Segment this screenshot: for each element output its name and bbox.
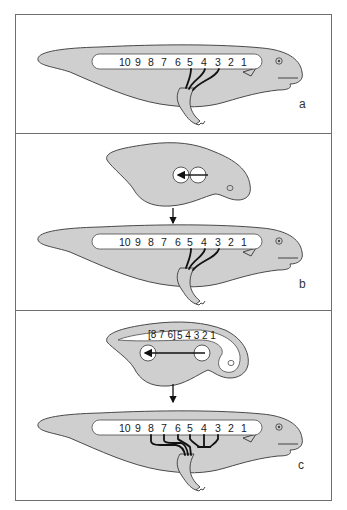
otic-vesicle: [228, 360, 234, 365]
segment-7: 7: [161, 422, 167, 434]
segment-8: 8: [148, 422, 154, 434]
segment-9: 9: [135, 236, 141, 248]
figure: 10 9 8 7 6 5 4 3 2 1 a: [0, 0, 347, 510]
segment-2: 2: [228, 56, 234, 68]
segment-2: 2: [228, 422, 234, 434]
segment-9: 9: [135, 422, 141, 434]
segment-10: 10: [119, 422, 131, 434]
segment-10: 10: [119, 56, 131, 68]
segment-4: 4: [201, 56, 207, 68]
diagram-canvas: 10 9 8 7 6 5 4 3 2 1 a: [0, 0, 347, 510]
segment-1: 1: [241, 56, 247, 68]
segment-6: 6: [175, 422, 181, 434]
panel-a: 10 9 8 7 6 5 4 3 2 1 a: [38, 45, 306, 125]
segment-5: 5: [187, 56, 193, 68]
grafted-segments-label: [8 7 6]: [148, 329, 176, 340]
panel-c: [8 7 6] 5 4 3 2 1 10 9 8 7 6 5 4 3 2 1: [38, 322, 304, 491]
segment-3: 3: [215, 422, 221, 434]
otic-vesicle: [227, 185, 233, 190]
host-segments-label: 5 4 3 2 1: [177, 330, 216, 341]
segment-6: 6: [175, 236, 181, 248]
segment-7: 7: [161, 236, 167, 248]
segment-8: 8: [148, 236, 154, 248]
panel-label-c: c: [298, 458, 304, 472]
segment-5: 5: [187, 422, 193, 434]
segment-8: 8: [148, 56, 154, 68]
segment-9: 9: [135, 56, 141, 68]
segment-6: 6: [175, 56, 181, 68]
segment-3: 3: [215, 56, 221, 68]
panel-b: 10 9 8 7 6 5 4 3 2 1 b: [38, 143, 306, 305]
segment-4: 4: [201, 422, 207, 434]
segment-3: 3: [215, 236, 221, 248]
segment-4: 4: [201, 236, 207, 248]
segment-2: 2: [228, 236, 234, 248]
panel-label-a: a: [299, 97, 306, 111]
segment-5: 5: [187, 236, 193, 248]
segment-1: 1: [241, 422, 247, 434]
segment-10: 10: [119, 236, 131, 248]
segment-1: 1: [241, 236, 247, 248]
panel-label-b: b: [299, 277, 306, 291]
segment-7: 7: [161, 56, 167, 68]
